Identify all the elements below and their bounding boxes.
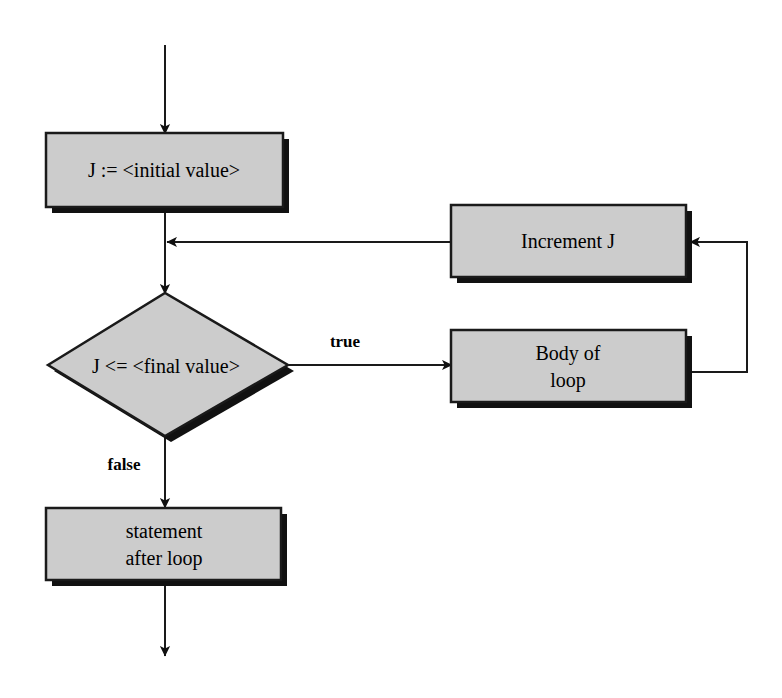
node-condition-label: J <= <final value> [92, 355, 240, 377]
node-body-of-loop-label-line2: loop [550, 369, 586, 392]
node-body-of-loop-box [451, 330, 686, 402]
edge-body-to-increment [686, 242, 747, 372]
node-body-of-loop[interactable]: Body of loop [451, 330, 692, 408]
node-increment[interactable]: Increment J [451, 205, 692, 283]
node-initialize-label: J := <initial value> [88, 159, 240, 181]
flowchart-svg: J := <initial value> Increment J J <= <f… [0, 0, 782, 698]
node-increment-label: Increment J [521, 230, 615, 252]
edge-label-true: true [330, 332, 361, 351]
node-statement-after-loop[interactable]: statement after loop [46, 508, 287, 586]
edge-label-false: false [107, 455, 141, 474]
node-body-of-loop-label-line1: Body of [536, 342, 601, 365]
node-initialize[interactable]: J := <initial value> [46, 133, 289, 213]
node-statement-after-loop-label-line1: statement [126, 520, 203, 542]
node-statement-after-loop-label-line2: after loop [125, 547, 202, 570]
node-statement-after-loop-box [46, 508, 281, 580]
flowchart-canvas: J := <initial value> Increment J J <= <f… [0, 0, 782, 698]
node-condition[interactable]: J <= <final value> [48, 293, 294, 442]
